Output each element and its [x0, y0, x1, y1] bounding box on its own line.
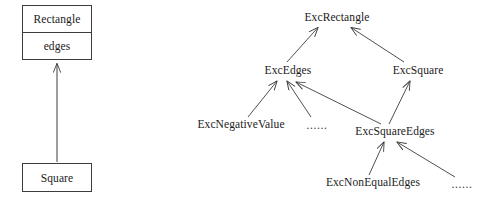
edge-excedges-to-excrectangle	[287, 28, 318, 63]
node-exc-rectangle: ExcRectangle	[304, 11, 369, 23]
node-exc-non-equal-edges: ExcNonEqualEdges	[326, 176, 420, 188]
uml-class-name-square: Square	[23, 164, 91, 191]
node-exc-edges: ExcEdges	[265, 64, 312, 76]
uml-attribute-edges: edges	[23, 33, 91, 59]
edge-excsquareedges-to-excsquare	[389, 81, 410, 124]
edge-excsquare-to-excrectangle	[351, 28, 404, 63]
edge-excnonequaledges-to-excsquareedges	[369, 142, 384, 175]
uml-class-square: Square	[22, 163, 92, 192]
diagram-canvas: Rectangle edges Square ExcRectangle ExcE…	[0, 0, 494, 198]
edge-ellipsis-to-excedges	[287, 81, 311, 117]
node-exc-negative-value: ExcNegativeValue	[197, 118, 284, 130]
node-ellipsis-square-edges: ......	[452, 178, 473, 190]
uml-class-name-rectangle: Rectangle	[23, 6, 91, 33]
node-exc-square-edges: ExcSquareEdges	[355, 125, 434, 137]
uml-class-rectangle: Rectangle edges	[22, 5, 92, 60]
edge-excsquareedges-to-excedges	[296, 82, 381, 124]
edge-ellipsis2-to-excsquareedges	[397, 142, 455, 177]
edge-excnegativevalue-to-excedges	[248, 81, 277, 117]
node-ellipsis-edges: ......	[307, 119, 328, 131]
node-exc-square: ExcSquare	[393, 64, 444, 76]
